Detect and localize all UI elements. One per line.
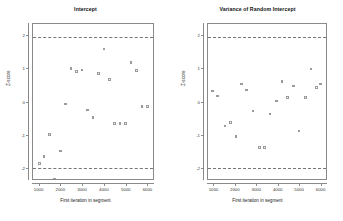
data-point (269, 113, 272, 116)
x-axis-line (207, 183, 327, 184)
data-point (64, 103, 67, 106)
y-axis-tick (26, 168, 29, 169)
data-point (315, 86, 318, 89)
y-axis-tick-label: -2 (21, 166, 25, 171)
x-axis-tick (299, 183, 300, 186)
x-axis: 100020003000400050006000 (32, 183, 154, 195)
y-axis-title: Z-score (6, 70, 11, 86)
data-point (224, 125, 227, 128)
x-axis-tick (256, 183, 257, 186)
y-axis-tick-label: 1 (198, 66, 200, 71)
y-axis-tick (201, 35, 204, 36)
x-axis-title: First iteration in segment (0, 198, 171, 203)
data-point (108, 78, 111, 81)
data-point (86, 109, 89, 112)
data-point (97, 72, 100, 75)
x-axis-tick-label: 1000 (34, 187, 44, 192)
x-axis-tick-label: 2000 (56, 187, 66, 192)
data-point (43, 155, 46, 158)
y-axis-tick (201, 168, 204, 169)
data-point (146, 105, 149, 108)
data-point (119, 122, 122, 125)
x-axis-tick (60, 183, 61, 186)
data-point (304, 96, 307, 99)
chart-panel-intercept: Intercept Z-score First iteration in seg… (0, 0, 171, 221)
y-axis-title: Z-score (181, 70, 186, 86)
data-point (75, 70, 78, 73)
data-point (286, 96, 289, 99)
data-point (240, 83, 243, 86)
y-axis-tick (201, 68, 204, 69)
x-axis-tick-label: 4000 (273, 187, 283, 192)
y-axis: -2-1012 (191, 23, 204, 180)
x-axis-tick-label: 2000 (230, 187, 240, 192)
reference-line-upper (208, 37, 326, 38)
data-point (319, 83, 322, 86)
x-axis-tick (82, 183, 83, 186)
y-axis-tick (26, 102, 29, 103)
data-point (38, 162, 41, 165)
x-axis-tick-label: 3000 (252, 187, 262, 192)
geweke-diagnostic-figure: Intercept Z-score First iteration in seg… (0, 0, 343, 221)
data-point (124, 122, 127, 125)
data-point (92, 116, 95, 119)
data-point (292, 85, 295, 88)
data-point (141, 105, 144, 108)
data-point (48, 133, 51, 136)
x-axis-tick (39, 183, 40, 186)
reference-line-lower (208, 168, 326, 169)
data-point (310, 68, 313, 71)
data-point (298, 130, 301, 133)
data-point (113, 122, 116, 125)
reference-line-upper (33, 37, 153, 38)
data-point (245, 89, 248, 92)
x-axis-tick-label: 3000 (77, 187, 87, 192)
y-axis-tick-label: 2 (198, 32, 200, 37)
x-axis-tick (104, 183, 105, 186)
x-axis-line (32, 183, 154, 184)
data-point (263, 146, 266, 149)
x-axis-tick (278, 183, 279, 186)
x-axis-tick (126, 183, 127, 186)
x-axis-tick-label: 6000 (316, 187, 326, 192)
x-axis-title: First iteration in segment (172, 198, 343, 203)
panel-title: Variance of Random Intercept (172, 5, 343, 13)
y-axis-tick (26, 68, 29, 69)
chart-panel-variance-of-random-intercept: Variance of Random Intercept Z-score Fir… (172, 0, 343, 221)
y-axis-tick-label: 0 (23, 99, 25, 104)
y-axis-tick (26, 135, 29, 136)
plot-area (32, 23, 154, 180)
x-axis-tick-label: 5000 (121, 187, 131, 192)
x-axis-tick (147, 183, 148, 186)
data-point (229, 121, 232, 124)
y-axis-tick (201, 135, 204, 136)
plot-area (207, 23, 327, 180)
data-point (252, 110, 255, 113)
data-point (130, 61, 133, 64)
x-axis: 100020003000400050006000 (207, 183, 327, 195)
y-axis-tick-label: 1 (23, 66, 25, 71)
x-axis-tick (213, 183, 214, 186)
x-axis-tick (235, 183, 236, 186)
data-point (281, 80, 284, 83)
data-point (135, 69, 138, 72)
panel-title: Intercept (0, 5, 171, 13)
x-axis-tick-label: 4000 (99, 187, 109, 192)
data-point (235, 135, 238, 138)
data-point (53, 178, 56, 180)
y-axis-tick-label: -1 (196, 132, 200, 137)
y-axis-tick-label: -2 (196, 166, 200, 171)
data-point (216, 95, 219, 98)
y-axis: -2-1012 (16, 23, 29, 180)
reference-line-lower (33, 168, 153, 169)
data-point (211, 90, 214, 93)
data-point (70, 67, 73, 70)
y-axis-tick-label: 2 (23, 32, 25, 37)
data-point (275, 100, 278, 103)
x-axis-tick-label: 6000 (143, 187, 153, 192)
y-axis-tick-label: 0 (198, 99, 200, 104)
y-axis-tick (26, 35, 29, 36)
x-axis-tick-label: 5000 (294, 187, 304, 192)
data-point (103, 48, 106, 51)
x-axis-tick (321, 183, 322, 186)
